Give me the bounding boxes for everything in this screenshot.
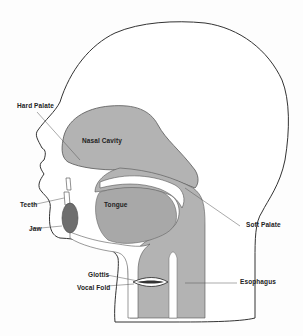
- label-jaw: Jaw: [29, 225, 42, 232]
- anatomy-drawing: [0, 0, 303, 336]
- label-hard-palate: Hard Palate: [17, 102, 54, 109]
- esophagus-channel: [169, 252, 177, 318]
- label-glottis: Glottis: [88, 271, 109, 278]
- label-tongue: Tongue: [104, 201, 128, 208]
- vocal-tract-diagram: Hard Palate Nasal Cavity Teeth Tongue Ja…: [0, 0, 303, 336]
- label-nasal-cavity: Nasal Cavity: [82, 137, 122, 144]
- label-soft-palate: Soft Palate: [246, 221, 281, 228]
- label-teeth: Teeth: [20, 201, 37, 208]
- label-esophagus: Esophagus: [240, 278, 276, 285]
- label-vocal-fold: Vocal Fold: [77, 284, 110, 291]
- jaw: [62, 203, 78, 233]
- upper-teeth: [66, 178, 71, 190]
